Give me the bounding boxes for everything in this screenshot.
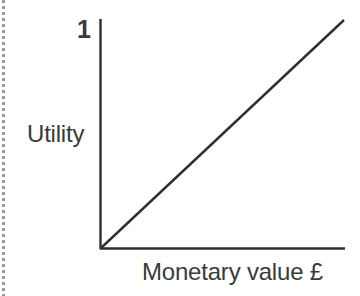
plot-area bbox=[0, 0, 360, 296]
x-axis-title: Monetary value £ bbox=[142, 260, 323, 284]
y-axis-title: Utility bbox=[27, 122, 84, 146]
y-axis-max-tick-label: 1 bbox=[77, 17, 91, 42]
utility-chart-figure: 1 Utility Monetary value £ bbox=[0, 0, 360, 296]
utility-curve-line bbox=[101, 20, 344, 248]
